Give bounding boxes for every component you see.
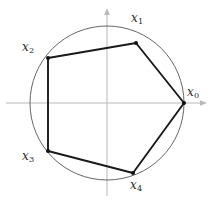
vertex-marker-x1	[134, 41, 138, 45]
y-axis-arrowhead	[104, 8, 110, 15]
figure-canvas: x0x1x2x3x4	[0, 0, 213, 201]
inscribed-polygon	[48, 43, 184, 173]
vertex-marker-x3	[46, 149, 50, 153]
axes-group	[6, 8, 207, 196]
vertex-marker-x2	[46, 56, 50, 60]
polygon-edge	[48, 151, 133, 173]
geometry-plot	[0, 0, 213, 201]
vertex-marker-x0	[182, 101, 186, 105]
x-axis-arrowhead	[200, 100, 207, 106]
polygon-edge	[48, 43, 136, 58]
vertex-marker-x4	[131, 171, 135, 175]
polygon-vertices	[46, 41, 186, 175]
polygon-edge	[133, 103, 184, 173]
polygon-edge	[136, 43, 184, 103]
